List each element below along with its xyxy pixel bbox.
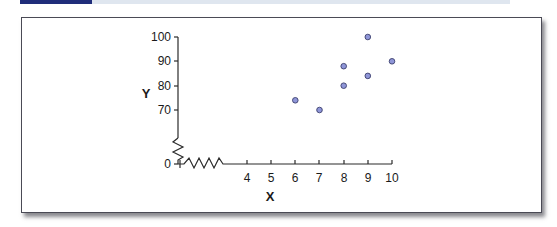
data-point (341, 63, 347, 69)
x-tick-label-8: 8 (341, 171, 348, 185)
data-point (365, 34, 371, 40)
x-tick-label-5: 5 (268, 171, 275, 185)
data-point (293, 98, 299, 104)
y-axis (173, 37, 183, 164)
scatter-plot: 100 90 80 70 0 4 5 6 7 8 9 10 Y X (0, 0, 557, 227)
data-point (341, 83, 347, 89)
x-tick-label-10: 10 (385, 171, 399, 185)
x-axis-title: X (266, 189, 275, 204)
y-tick-labels: 100 90 80 70 0 (151, 30, 171, 171)
y-tick-label-80: 80 (158, 79, 172, 93)
data-point (389, 59, 395, 65)
y-tick-label-90: 90 (158, 54, 172, 68)
x-tick-label-9: 9 (365, 171, 372, 185)
x-tick-label-4: 4 (244, 171, 251, 185)
y-tick-label-100: 100 (151, 30, 171, 44)
origin-label: 0 (164, 157, 171, 171)
data-point (317, 107, 323, 113)
x-axis (178, 158, 392, 168)
y-tick-label-70: 70 (158, 103, 172, 117)
y-axis-title: Y (142, 86, 151, 101)
x-tick-label-6: 6 (292, 171, 299, 185)
data-point (365, 73, 371, 79)
data-points (293, 34, 395, 113)
x-tick-labels: 4 5 6 7 8 9 10 (244, 171, 399, 185)
x-tick-label-7: 7 (316, 171, 323, 185)
